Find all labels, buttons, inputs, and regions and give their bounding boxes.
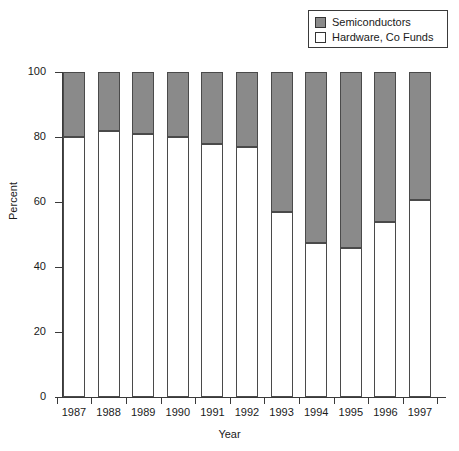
bar-segment-semiconductors-1992 [236,72,258,147]
stacked-bar-chart: Semiconductors Hardware, Co Funds 020406… [0,0,459,451]
legend-swatch-hardware [315,32,326,43]
legend-swatch-semiconductors [315,17,326,28]
bar-segment-hardware-1996 [374,222,396,398]
bar-segment-semiconductors-1993 [271,72,293,212]
x-axis-line [62,397,446,398]
bar-segment-semiconductors-1989 [132,72,154,134]
x-tick-1996-left [368,398,369,404]
x-tick-1988-left [91,398,92,404]
y-tick-20 [55,332,62,333]
x-tick-1989-left [126,398,127,404]
bar-segment-semiconductors-1990 [167,72,189,137]
y-tick-label-40: 40 [0,261,46,272]
x-tick-1991-left [195,398,196,404]
y-tick-label-80: 80 [0,131,46,142]
y-axis-title: Percent [7,166,19,236]
x-tick-1987-left [57,398,58,404]
x-tick-1993-left [264,398,265,404]
bar-segment-semiconductors-1997 [409,72,431,200]
legend-label-semiconductors: Semiconductors [332,16,411,28]
bar-segment-hardware-1995 [340,248,362,398]
bar-segment-semiconductors-1991 [201,72,223,144]
y-tick-80 [55,137,62,138]
bar-segment-semiconductors-1996 [374,72,396,222]
chart-legend: Semiconductors Hardware, Co Funds [308,10,448,48]
bar-segment-semiconductors-1988 [98,72,120,131]
x-tick-1995-left [334,398,335,404]
y-tick-40 [55,267,62,268]
x-tick-1990-left [161,398,162,404]
bar-segment-hardware-1990 [167,137,189,397]
bar-segment-hardware-1991 [201,144,223,398]
x-tick-1994-left [299,398,300,404]
legend-label-hardware: Hardware, Co Funds [332,31,434,43]
y-tick-100 [55,72,62,73]
x-tick-1997-left [403,398,404,404]
y-tick-label-20: 20 [0,326,46,337]
x-tick-1997-right [437,398,438,404]
y-tick-60 [55,202,62,203]
y-tick-label-0: 0 [0,391,46,402]
legend-item-semiconductors: Semiconductors [315,15,441,29]
x-tick-label-1997: 1997 [400,406,440,418]
x-axis-title: Year [0,428,459,440]
bar-segment-semiconductors-1987 [63,72,85,137]
bar-segment-semiconductors-1995 [340,72,362,248]
bar-segment-semiconductors-1994 [305,72,327,243]
bar-segment-hardware-1988 [98,131,120,398]
bar-segment-hardware-1989 [132,134,154,397]
bar-segment-hardware-1992 [236,147,258,397]
y-tick-label-100: 100 [0,66,46,77]
bar-segment-hardware-1994 [305,243,327,397]
bar-segment-hardware-1987 [63,137,85,397]
legend-item-hardware: Hardware, Co Funds [315,30,441,44]
x-tick-1992-left [230,398,231,404]
bar-segment-hardware-1997 [409,200,431,397]
bar-segment-hardware-1993 [271,212,293,397]
